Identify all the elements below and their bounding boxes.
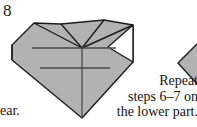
caption-line-2: steps 6–7 on: [94, 89, 197, 105]
step-number: 8: [3, 2, 12, 19]
caption-repeat-instruction: Repeat steps 6–7 on the lower part.: [94, 73, 197, 120]
caption-left-fragment: ear.: [0, 103, 20, 118]
caption-line-3: the lower part.: [94, 104, 197, 120]
caption-line-1: Repeat: [94, 73, 197, 89]
origami-diagram-page: 8 ear. Repeat steps 6–7 on the lower par…: [0, 0, 197, 127]
